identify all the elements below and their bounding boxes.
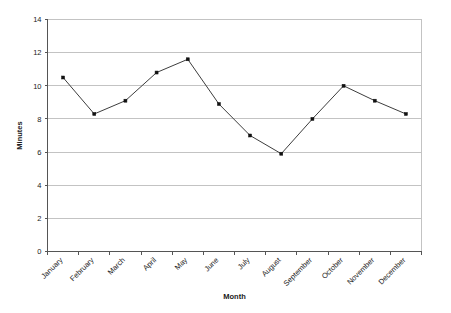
data-point-marker <box>124 99 127 102</box>
y-tick-label: 2 <box>37 214 41 223</box>
data-point-marker <box>217 103 220 106</box>
y-tick-label: 0 <box>37 247 41 256</box>
data-point-marker <box>311 117 314 120</box>
chart-canvas: 02468101214 JanuaryFebruaryMarchAprilMay… <box>0 0 451 313</box>
data-point-marker <box>249 134 252 137</box>
x-axis-title: Month <box>223 292 246 301</box>
data-point-marker <box>342 84 345 87</box>
y-tick-label: 8 <box>37 115 41 124</box>
data-point-marker <box>404 112 407 115</box>
data-point-marker <box>62 76 65 79</box>
chart-background <box>0 0 451 313</box>
y-tick-label: 14 <box>33 15 41 24</box>
y-tick-label: 4 <box>37 181 41 190</box>
data-point-marker <box>93 112 96 115</box>
data-point-marker <box>373 99 376 102</box>
data-point-marker <box>280 152 283 155</box>
data-point-marker <box>155 71 158 74</box>
y-tick-label: 10 <box>33 82 41 91</box>
data-point-marker <box>186 58 189 61</box>
y-tick-label: 12 <box>33 48 41 57</box>
y-tick-label: 6 <box>37 148 41 157</box>
line-chart: 02468101214 JanuaryFebruaryMarchAprilMay… <box>0 0 451 313</box>
y-axis-title: Minutes <box>15 121 24 149</box>
